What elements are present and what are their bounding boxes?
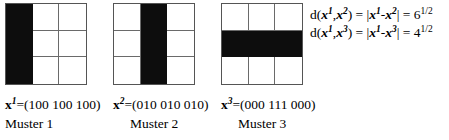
vector-value: =(000 111 000) [233, 97, 316, 112]
vector-symbol: x [385, 25, 392, 40]
distance-equations: d(x1,x2) = |x1-x2| = 61/2 d(x1,x3) = |x1… [310, 6, 433, 42]
grid-cell [141, 4, 168, 31]
distance-value: 6 [414, 7, 421, 22]
pattern-caption-3: x3=(000 111 000) Muster 3 [221, 96, 316, 132]
figure-canvas: x1=(100 100 100) Muster 1 x2=(010 010 01… [0, 0, 449, 140]
close-norm-equals: | = [397, 25, 414, 40]
grid-cell [33, 31, 60, 58]
vector-symbol: x [113, 97, 120, 112]
distance-exponent: 1/2 [421, 6, 433, 16]
grid-cell [59, 57, 86, 84]
pattern-caption-1: x1=(100 100 100) Muster 1 [5, 96, 101, 132]
vector-symbol: x [321, 25, 328, 40]
equals-open-norm: ) = | [348, 25, 370, 40]
grid-cell [249, 31, 276, 58]
pattern-name-2: Muster 2 [130, 115, 209, 132]
vector-value: =(100 100 100) [17, 97, 101, 112]
vector-symbol: x [385, 7, 392, 22]
grid-cell [33, 57, 60, 84]
vector-symbol: x [369, 25, 376, 40]
grid-cell [59, 31, 86, 58]
pattern-grid-1 [5, 3, 87, 85]
grid-cell [114, 4, 141, 31]
grid-cell [222, 31, 249, 58]
close-norm-equals: | = [397, 7, 414, 22]
grid-cell [167, 57, 194, 84]
grid-cell [222, 4, 249, 31]
grid-cell [275, 4, 302, 31]
grid-cell [141, 57, 168, 84]
grid-cell [275, 57, 302, 84]
grid-cell [167, 31, 194, 58]
distance-equation-2: d(x1,x3) = |x1-x3| = 41/2 [310, 24, 433, 42]
grid-cell [114, 57, 141, 84]
pattern-vector-1: x1=(100 100 100) [5, 97, 101, 112]
grid-cell [222, 57, 249, 84]
pattern-grid-3 [221, 3, 303, 85]
vector-symbol: x [369, 7, 376, 22]
grid-cell [6, 4, 33, 31]
vector-symbol: x [221, 97, 228, 112]
grid-cell [167, 4, 194, 31]
pattern-name-3: Muster 3 [238, 115, 316, 132]
pattern-caption-2: x2=(010 010 010) Muster 2 [113, 96, 209, 132]
grid-cell [6, 31, 33, 58]
distance-value: 4 [414, 25, 421, 40]
vector-symbol: x [336, 25, 343, 40]
grid-cell [114, 31, 141, 58]
distance-function: d( [310, 7, 321, 22]
grid-cell [33, 4, 60, 31]
grid-cell [249, 4, 276, 31]
equals-open-norm: ) = | [348, 7, 370, 22]
pattern-grid-2 [113, 3, 195, 85]
grid-cell [59, 4, 86, 31]
vector-symbol: x [5, 97, 12, 112]
vector-symbol: x [321, 7, 328, 22]
vector-value: =(010 010 010) [125, 97, 209, 112]
pattern-name-1: Muster 1 [5, 115, 101, 132]
distance-function: d( [310, 25, 321, 40]
vector-symbol: x [336, 7, 343, 22]
pattern-vector-2: x2=(010 010 010) [113, 97, 209, 112]
grid-cell [275, 31, 302, 58]
distance-exponent: 1/2 [421, 24, 433, 34]
pattern-vector-3: x3=(000 111 000) [221, 97, 316, 112]
distance-equation-1: d(x1,x2) = |x1-x2| = 61/2 [310, 6, 433, 24]
grid-cell [141, 31, 168, 58]
grid-cell [249, 57, 276, 84]
grid-cell [6, 57, 33, 84]
